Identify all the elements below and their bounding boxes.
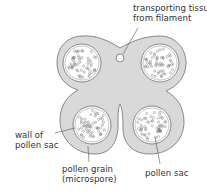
transporting-tissue <box>116 54 124 62</box>
label-pollen-sac: pollen sac <box>145 168 188 178</box>
pollen-sac-top-right <box>141 44 179 82</box>
label-pollen-grain: pollen grain (microspore) <box>62 164 117 184</box>
label-transporting-tissue: transporting tissue from filament <box>133 3 207 23</box>
label-wall-of-pollen-sac: wall of pollen sac <box>15 130 58 150</box>
pollen-sac-bottom-right <box>133 106 171 144</box>
